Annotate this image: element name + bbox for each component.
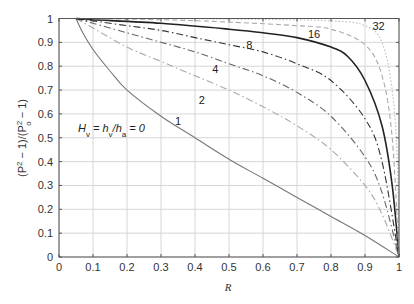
y-tick-label: 1 [47, 13, 53, 25]
y-tick-label: 0.7 [38, 84, 53, 96]
y-tick-label: 0 [47, 251, 53, 263]
x-tick-label: 0.3 [153, 261, 168, 273]
x-tick-label: 0.4 [187, 261, 202, 273]
annotation: Hv = hv/ha = 0 [78, 122, 146, 139]
curve-labels: 12481632 [175, 20, 385, 127]
curve-label-2: 2 [199, 94, 205, 106]
x-tick-label: 0.1 [85, 261, 100, 273]
y-tick-label: 0.2 [38, 203, 53, 215]
chart: 00.10.20.30.40.50.60.70.80.91 00.10.20.3… [0, 0, 414, 304]
x-tick-label: 0.8 [323, 261, 338, 273]
x-tick-label: 0.7 [289, 261, 304, 273]
x-tick-label: 0 [56, 261, 62, 273]
y-tick-label: 0.5 [38, 132, 53, 144]
x-tick-label: 0.9 [357, 261, 372, 273]
curve-label-8: 8 [246, 39, 252, 51]
y-axis-label: (P2 − 1)/(P2o − 1) [15, 99, 33, 177]
x-tick-label: 0.2 [119, 261, 134, 273]
curve-label-4: 4 [212, 63, 218, 75]
x-tick-label: 1 [396, 261, 402, 273]
y-tick-label: 0.6 [38, 108, 53, 120]
y-tick-label: 0.3 [38, 179, 53, 191]
y-tick-label: 0.1 [38, 227, 53, 239]
y-tick-label: 0.9 [38, 36, 53, 48]
y-tick-label: 0.4 [38, 156, 53, 168]
x-axis-label: R [224, 281, 232, 293]
curve-label-16: 16 [308, 28, 320, 40]
x-tick-label: 0.6 [255, 261, 270, 273]
curve-label-32: 32 [372, 20, 384, 32]
x-tick-label: 0.5 [221, 261, 236, 273]
y-tick-label: 0.8 [38, 60, 53, 72]
curve-label-1: 1 [175, 115, 181, 127]
